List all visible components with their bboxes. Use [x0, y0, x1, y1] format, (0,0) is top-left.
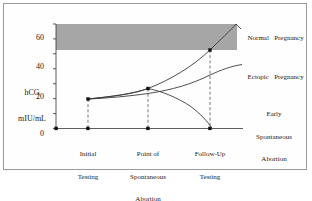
legend-early-spontaneous-abortion: Early Spontaneous Abortion	[240, 96, 308, 171]
legend-normal-pregnancy: Normal Pregnancy	[244, 27, 310, 42]
legend-early-line3: Abortion	[240, 156, 308, 164]
legend-ectopic-pregnancy: Ectopic Pregnancy	[244, 66, 310, 81]
x-category-initial-testing: Initial Testing	[58, 136, 118, 175]
marker-point-of-abortion	[146, 87, 149, 90]
x-category-follow-up-testing: Follow-Up Testing	[181, 136, 239, 175]
legend-early-line1: Early	[240, 111, 308, 119]
x-category-abortion-line2: Spontaneous	[118, 174, 178, 175]
x-category-initial-testing-line2: Testing	[58, 174, 118, 175]
y-tick-label-40: 40	[30, 63, 44, 72]
legend-early-line2: Spontaneous	[240, 134, 308, 142]
series-early-spontaneous-abortion-curve	[88, 89, 212, 129]
legend-normal-word2: Pregnancy	[274, 34, 304, 42]
y-tick-label-20: 20	[30, 93, 44, 102]
series-data-point-markers	[86, 48, 211, 100]
y-tick-label-0: 0	[34, 130, 44, 139]
x-category-point-of-spontaneous-abortion: Point of Spontaneous Abortion	[118, 136, 178, 175]
y-tick-marks	[53, 24, 56, 129]
legend-ectopic-word1: Ectopic	[248, 73, 269, 81]
normal-range-shaded-band	[56, 24, 237, 50]
x-category-follow-up-line2: Testing	[181, 174, 239, 175]
x-category-abortion-line1: Point of	[118, 151, 178, 159]
legend-normal-word1: Normal	[248, 34, 269, 42]
marker-follow-up-normal	[208, 48, 211, 51]
y-axis-title-line2: mIU/mL	[12, 115, 52, 124]
legend-ectopic-word2: Pregnancy	[274, 73, 304, 81]
x-category-initial-testing-line1: Initial	[58, 151, 118, 159]
marker-initial-testing	[86, 97, 89, 100]
x-category-follow-up-line1: Follow-Up	[181, 151, 239, 159]
y-axis-title: hCG mIU/mL	[12, 72, 52, 132]
y-tick-label-60: 60	[30, 34, 44, 43]
series-ectopic-pregnancy-curve	[88, 65, 242, 100]
